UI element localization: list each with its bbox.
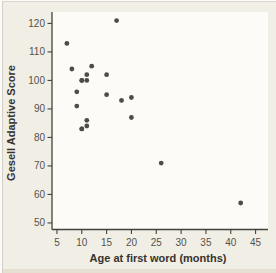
plot-area — [52, 12, 268, 230]
y-tick-label: 90 — [34, 103, 46, 114]
data-point — [74, 104, 79, 109]
y-tick-label: 70 — [34, 160, 46, 171]
y-axis: 5060708090100110120 — [28, 12, 52, 230]
data-point — [84, 78, 89, 83]
y-tick-label: 50 — [34, 217, 46, 228]
data-point — [65, 41, 70, 46]
x-tick-label: 5 — [54, 237, 60, 248]
x-tick-label: 20 — [126, 237, 138, 248]
x-tick-label: 10 — [76, 237, 88, 248]
y-tick-label: 110 — [29, 46, 45, 57]
data-point — [79, 78, 84, 83]
card-bottom-edge — [3, 269, 276, 273]
data-point — [104, 92, 109, 97]
data-point — [119, 98, 124, 103]
data-point — [74, 89, 79, 94]
x-tick-label: 35 — [200, 237, 212, 248]
x-tick-label: 40 — [225, 237, 237, 248]
x-tick-label: 30 — [176, 237, 188, 248]
data-point — [79, 127, 84, 132]
x-axis-title: Age at first word (months) — [90, 252, 227, 264]
y-tick-label: 60 — [34, 189, 46, 200]
data-point — [129, 95, 134, 100]
data-point — [114, 18, 119, 23]
scatter-plot: 5060708090100110120 51015202530354045 Ag… — [3, 2, 276, 273]
x-tick-label: 15 — [101, 237, 113, 248]
data-point — [84, 118, 89, 123]
data-point — [104, 72, 109, 77]
data-point — [159, 161, 164, 166]
data-point — [129, 115, 134, 120]
y-tick-label: 100 — [28, 75, 45, 86]
x-tick-label: 25 — [151, 237, 163, 248]
data-point — [70, 67, 75, 72]
chart-card: 5060708090100110120 51015202530354045 Ag… — [2, 1, 276, 273]
y-tick-label: 120 — [28, 18, 45, 29]
y-tick-label: 80 — [34, 132, 46, 143]
x-axis: 51015202530354045 — [52, 230, 268, 249]
y-axis-title: Gesell Adaptive Score — [5, 65, 17, 181]
data-point — [89, 64, 94, 69]
x-tick-label: 45 — [250, 237, 262, 248]
data-point — [84, 72, 89, 77]
data-point — [238, 201, 243, 206]
data-point — [84, 124, 89, 129]
